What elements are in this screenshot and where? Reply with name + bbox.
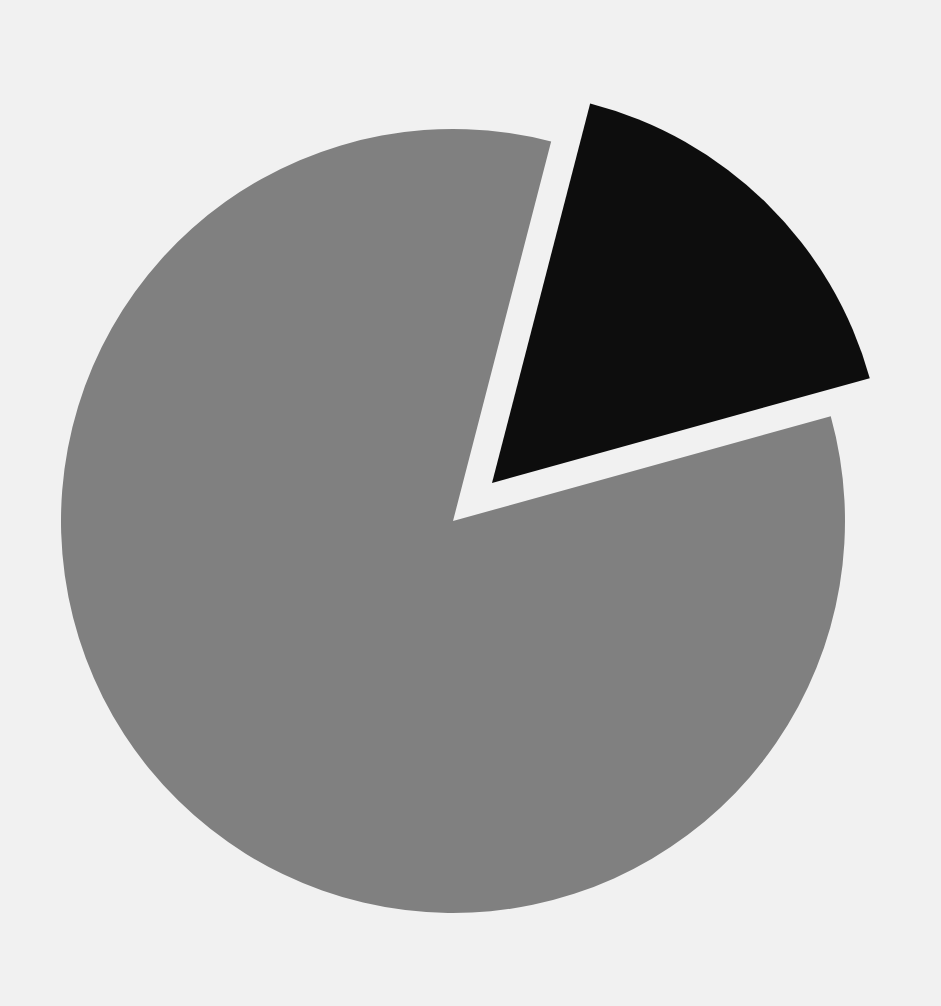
pie-chart-canvas (0, 0, 941, 1006)
pie-chart-figure (0, 0, 941, 1006)
